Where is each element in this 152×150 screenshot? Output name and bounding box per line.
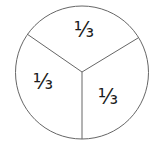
slice-label-right: ⅓ (98, 85, 118, 109)
fraction-pie-diagram: ⅓ ⅓ ⅓ (0, 0, 152, 150)
slice-label-left: ⅓ (33, 70, 53, 94)
slice-label-top: ⅓ (74, 18, 94, 42)
